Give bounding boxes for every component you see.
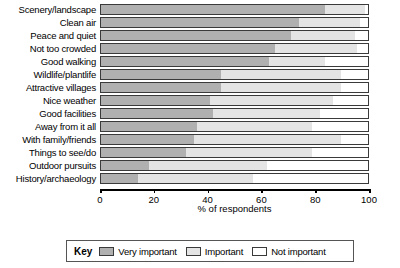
bar-row: Nice weather	[0, 94, 400, 107]
bar-segment	[312, 122, 368, 131]
x-axis-tick	[369, 189, 371, 193]
category-label: Scenery/landscape	[0, 4, 100, 15]
bar-segment	[101, 174, 138, 183]
bar-track	[100, 30, 369, 41]
bar-segment	[312, 148, 368, 157]
category-label: Wildlife/plantlife	[0, 69, 100, 80]
bar-segment	[101, 122, 197, 131]
bar-segment	[101, 44, 275, 53]
bar-segment	[291, 31, 355, 40]
category-label: Good walking	[0, 56, 100, 67]
bar-segment	[299, 18, 360, 27]
bar-row: History/archaeology	[0, 172, 400, 185]
bar-segment	[101, 109, 213, 118]
bar-row: Things to see/do	[0, 146, 400, 159]
bar-segment	[194, 135, 341, 144]
bar-segment	[267, 161, 368, 170]
category-label: Nice weather	[0, 95, 100, 106]
bar-segment	[186, 148, 311, 157]
category-label: Attractive villages	[0, 82, 100, 93]
bar-row: Attractive villages	[0, 81, 400, 94]
bar-track	[100, 160, 369, 171]
bar-segment	[341, 70, 368, 79]
bar-segment	[253, 174, 368, 183]
x-axis-tick	[315, 189, 317, 193]
bar-row: With family/friends	[0, 133, 400, 146]
plot-area: Scenery/landscapeClean airPeace and quie…	[0, 0, 400, 200]
bar-segment	[101, 18, 299, 27]
bar-track	[100, 4, 369, 15]
bar-segment	[213, 109, 320, 118]
category-label: Clean air	[0, 17, 100, 28]
bar-track	[100, 108, 369, 119]
category-label: Good facilities	[0, 108, 100, 119]
bar-row: Good facilities	[0, 107, 400, 120]
bar-track	[100, 121, 369, 132]
bar-segment	[355, 31, 368, 40]
bar-segment	[365, 5, 368, 14]
x-axis-line	[100, 189, 369, 191]
bar-segment	[269, 57, 325, 66]
bar-track	[100, 95, 369, 106]
category-label: History/archaeology	[0, 173, 100, 184]
bar-segment	[138, 174, 253, 183]
x-axis-title: % of respondents	[100, 203, 369, 214]
bar-row: Not too crowded	[0, 42, 400, 55]
bar-track	[100, 56, 369, 67]
bar-track	[100, 147, 369, 158]
bar-row: Peace and quiet	[0, 29, 400, 42]
bar-segment	[221, 70, 341, 79]
bar-segment	[320, 109, 368, 118]
bar-segment	[357, 44, 368, 53]
bar-segment	[341, 83, 368, 92]
bar-segment	[101, 31, 291, 40]
legend-swatch	[252, 247, 267, 256]
bar-row: Away from it all	[0, 120, 400, 133]
bar-segment	[149, 161, 266, 170]
bar-segment	[197, 122, 312, 131]
x-axis: 020406080100	[100, 189, 369, 190]
bar-track	[100, 43, 369, 54]
bar-segment	[101, 148, 186, 157]
legend-title: Key	[74, 246, 92, 257]
legend-swatch	[99, 247, 114, 256]
bar-segment	[101, 96, 210, 105]
bar-track	[100, 82, 369, 93]
bar-rows: Scenery/landscapeClean airPeace and quie…	[0, 3, 400, 185]
category-label: Peace and quiet	[0, 30, 100, 41]
bar-track	[100, 134, 369, 145]
bar-segment	[101, 135, 194, 144]
bar-segment	[221, 83, 341, 92]
bar-segment	[325, 57, 368, 66]
x-axis-tick	[100, 189, 102, 193]
category-label: Not too crowded	[0, 43, 100, 54]
bar-row: Outdoor pursuits	[0, 159, 400, 172]
legend-items: Very importantImportantNot important	[99, 246, 334, 257]
legend-item: Important	[186, 246, 243, 257]
bar-segment	[101, 83, 221, 92]
bar-row: Clean air	[0, 16, 400, 29]
legend: Key Very importantImportantNot important	[66, 240, 354, 262]
bar-segment	[101, 161, 149, 170]
legend-item: Not important	[252, 246, 325, 257]
bar-track	[100, 173, 369, 184]
legend-label: Very important	[118, 246, 176, 257]
bar-segment	[341, 135, 368, 144]
bar-row: Wildlife/plantlife	[0, 68, 400, 81]
bar-track	[100, 17, 369, 28]
category-label: Outdoor pursuits	[0, 160, 100, 171]
bar-segment	[325, 5, 365, 14]
legend-label: Important	[205, 246, 243, 257]
bar-segment	[333, 96, 368, 105]
bar-segment	[360, 18, 368, 27]
category-label: Away from it all	[0, 121, 100, 132]
bar-segment	[101, 5, 325, 14]
legend-swatch	[186, 247, 201, 256]
x-axis-tick	[208, 189, 210, 193]
bar-segment	[275, 44, 358, 53]
bar-segment	[210, 96, 333, 105]
legend-item: Very important	[99, 246, 176, 257]
stacked-bar-chart: Scenery/landscapeClean airPeace and quie…	[0, 0, 400, 268]
bar-segment	[101, 70, 221, 79]
category-label: With family/friends	[0, 134, 100, 145]
